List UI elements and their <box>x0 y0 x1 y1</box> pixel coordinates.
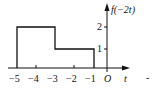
x-axis-arrow-icon <box>122 66 130 71</box>
x-tick-label-neg5: −5 <box>9 73 20 84</box>
y-tick-label-2: 2 <box>97 21 102 32</box>
function-label: f(−2t) <box>111 4 136 16</box>
x-tick-label-neg3: −3 <box>47 73 58 84</box>
trailing-mark: - <box>146 72 149 83</box>
x-tick-label-neg4: −4 <box>28 73 39 84</box>
origin-label: O <box>104 73 111 84</box>
x-axis-label: t <box>124 73 127 84</box>
y-axis-arrow-icon <box>105 3 110 11</box>
step-function-plot: f(−2t) 2 1 −5 −4 −3 −2 −1 O t - <box>0 0 152 92</box>
x-tick-label-neg1: −1 <box>85 73 96 84</box>
x-tick-label-neg2: −2 <box>66 73 77 84</box>
y-tick-label-1: 1 <box>97 43 102 54</box>
step-function-curve <box>17 27 94 68</box>
